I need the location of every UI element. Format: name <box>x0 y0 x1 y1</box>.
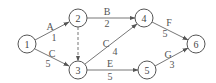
node-4-label: 4 <box>142 13 147 24</box>
edge-1-2-activity: A <box>46 21 54 32</box>
node-2: 2 <box>69 9 87 27</box>
edge-3-5-activity: E <box>107 58 113 69</box>
edge-2-4-duration: 2 <box>105 18 110 29</box>
node-1-label: 1 <box>25 39 30 50</box>
edge-4-6-duration: 5 <box>163 28 168 39</box>
node-1: 1 <box>18 35 36 53</box>
edge-3-4-activity: C <box>103 38 110 49</box>
edge-3-4-duration: 4 <box>113 46 118 57</box>
node-5: 5 <box>138 61 156 79</box>
node-3: 3 <box>69 61 87 79</box>
node-2-label: 2 <box>76 13 81 24</box>
edge-2-4-activity: B <box>104 6 111 17</box>
edge-1-2-duration: 1 <box>52 32 57 43</box>
edge-4-6-activity: F <box>166 17 172 28</box>
edge-5-6-duration: 3 <box>170 59 175 70</box>
node-6-label: 6 <box>194 39 199 50</box>
node-3-label: 3 <box>76 65 81 76</box>
edge-1-3-duration: 5 <box>46 58 51 69</box>
node-4: 4 <box>135 9 153 27</box>
node-5-label: 5 <box>145 65 150 76</box>
edge-3-5-duration: 5 <box>108 71 113 82</box>
node-6: 6 <box>187 35 205 53</box>
network-diagram: A 1 C 5 B 2 C 4 E 5 F 5 G 3 1 2 3 4 5 6 <box>0 0 216 83</box>
